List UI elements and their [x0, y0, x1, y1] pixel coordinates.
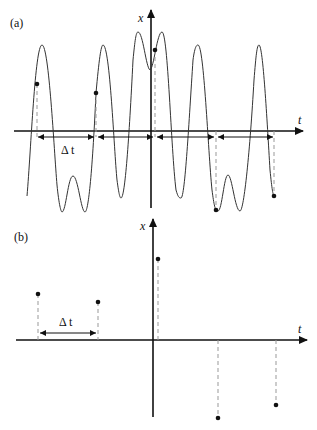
- sample-point: [36, 292, 41, 297]
- sample-point: [156, 257, 161, 262]
- sample-points-b: [36, 257, 279, 421]
- sample-point: [94, 91, 99, 96]
- sample-points-a: [35, 48, 277, 213]
- t-axis-label-b: t: [298, 322, 302, 336]
- sample-point: [274, 403, 279, 408]
- sample-point: [35, 82, 40, 87]
- sampling-diagram: (a) t x Δ t: [0, 0, 317, 430]
- t-axis-label-a: t: [298, 113, 302, 127]
- x-axis-label-b: x: [139, 219, 146, 233]
- x-axis-label-a: x: [137, 11, 144, 25]
- sample-point: [153, 48, 158, 53]
- panel-b: (b) t x Δ t: [14, 219, 307, 420]
- panel-a-label: (a): [10, 16, 23, 30]
- delta-t-label-b: Δ t: [59, 315, 73, 329]
- panel-b-label: (b): [14, 230, 28, 244]
- sample-guides-a: [37, 50, 274, 210]
- delta-t-label-a: Δ t: [61, 143, 75, 157]
- sample-point: [214, 208, 219, 213]
- sample-point: [272, 194, 277, 199]
- sample-point: [96, 300, 101, 305]
- sample-guides-b: [38, 259, 276, 418]
- sample-point: [216, 416, 221, 421]
- panel-a: (a) t x Δ t: [10, 10, 303, 212]
